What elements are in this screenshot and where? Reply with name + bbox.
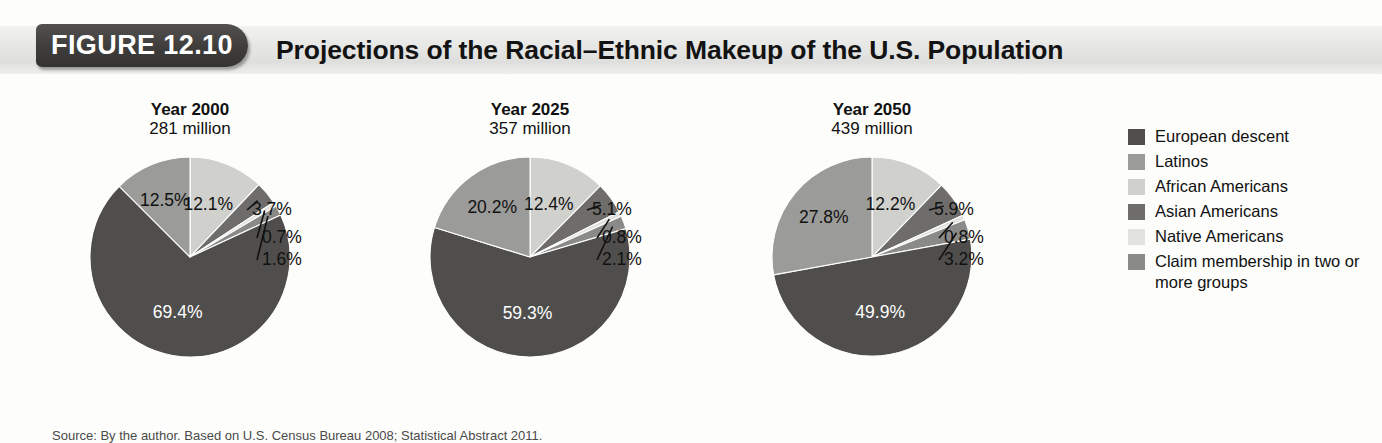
pie-slice-label: 27.8%: [799, 207, 849, 228]
legend-item: European descent: [1128, 126, 1378, 147]
pie-year-label-0: Year 2000: [60, 100, 320, 119]
pie-figure-0: 12.1%3.7%0.7%1.6%69.4%12.5%: [60, 152, 320, 362]
source-note: Source: By the author. Based on U.S. Cen…: [52, 428, 542, 443]
pie-slice-label: 3.2%: [944, 249, 984, 270]
pie-slice-label: 69.4%: [153, 302, 203, 323]
legend-item: Claim membership in two or more groups: [1128, 251, 1378, 293]
pie-year-label-2: Year 2050: [742, 100, 1002, 119]
legend-swatch-icon: [1128, 154, 1145, 170]
pie-slice-label: 0.8%: [944, 227, 984, 248]
legend-item-label: Claim membership in two or more groups: [1155, 251, 1378, 293]
legend-item-label: European descent: [1155, 126, 1289, 147]
pie-caption-1: Year 2025 357 million: [400, 100, 660, 138]
figure-number-label: FIGURE 12.10: [51, 30, 233, 61]
figure-number-badge: FIGURE 12.10: [36, 24, 248, 67]
pie-population-label-0: 281 million: [60, 119, 320, 138]
pie-slice-label: 12.2%: [866, 194, 916, 215]
legend-swatch-icon: [1128, 229, 1145, 245]
pie-slice-label: 12.1%: [183, 194, 233, 215]
pie-chart-group-2: Year 2050 439 million 12.2%5.9%0.8%3.2%4…: [742, 100, 1002, 362]
pie-population-label-1: 357 million: [400, 119, 660, 138]
pie-slice-label: 12.5%: [140, 190, 190, 211]
legend-item: Latinos: [1128, 151, 1378, 172]
legend-item: African Americans: [1128, 176, 1378, 197]
pie-population-label-2: 439 million: [742, 119, 1002, 138]
legend-item-label: African Americans: [1155, 176, 1288, 197]
pie-slice-label: 5.1%: [592, 199, 632, 220]
pie-figure-2: 12.2%5.9%0.8%3.2%49.9%27.8%: [742, 152, 1002, 362]
pie-caption-0: Year 2000 281 million: [60, 100, 320, 138]
legend-item-label: Native Americans: [1155, 226, 1283, 247]
legend-swatch-icon: [1128, 179, 1145, 195]
legend: European descentLatinosAfrican Americans…: [1128, 126, 1378, 297]
pie-slice-label: 0.8%: [602, 227, 642, 248]
pie-slice-label: 5.9%: [934, 199, 974, 220]
pie-slice-label: 12.4%: [524, 194, 574, 215]
page-title: Projections of the Racial–Ethnic Makeup …: [276, 26, 1063, 74]
legend-item-label: Asian Americans: [1155, 201, 1278, 222]
pie-slice-label: 1.6%: [262, 249, 302, 270]
pie-year-label-1: Year 2025: [400, 100, 660, 119]
pie-slice-label: 3.7%: [252, 199, 292, 220]
legend-item: Native Americans: [1128, 226, 1378, 247]
pie-slice-label: 0.7%: [262, 227, 302, 248]
pie-figure-1: 12.4%5.1%0.8%2.1%59.3%20.2%: [400, 152, 660, 362]
legend-item: Asian Americans: [1128, 201, 1378, 222]
pie-chart-group-0: Year 2000 281 million 12.1%3.7%0.7%1.6%6…: [60, 100, 320, 362]
legend-item-label: Latinos: [1155, 151, 1208, 172]
pie-slice-label: 2.1%: [602, 249, 642, 270]
pie-slice-label: 20.2%: [467, 197, 517, 218]
pie-chart-group-1: Year 2025 357 million 12.4%5.1%0.8%2.1%5…: [400, 100, 660, 362]
legend-swatch-icon: [1128, 254, 1145, 270]
pie-caption-2: Year 2050 439 million: [742, 100, 1002, 138]
pie-slice-label: 59.3%: [503, 303, 553, 324]
legend-swatch-icon: [1128, 204, 1145, 220]
pie-slice-label: 49.9%: [855, 302, 905, 323]
legend-swatch-icon: [1128, 129, 1145, 145]
